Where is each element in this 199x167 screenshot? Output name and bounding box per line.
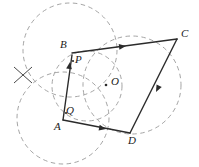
vertex-label-b: B	[60, 39, 67, 50]
segment-A-D	[63, 120, 130, 133]
geometry-figure: BPCOQAD	[0, 0, 199, 167]
vertex-dot-p	[72, 60, 74, 62]
segment-C-D-arrowhead-icon	[156, 84, 162, 92]
vertex-label-a: A	[54, 121, 61, 132]
segment-B-C-arrowhead-icon	[119, 44, 126, 50]
vertex-label-q: Q	[66, 105, 74, 116]
vertex-label-p: P	[75, 54, 82, 65]
vertex-label-d: D	[128, 135, 136, 146]
tick-mark-group	[14, 67, 32, 83]
segment-C-D	[130, 39, 177, 133]
circle-upper-left	[23, 3, 117, 97]
figure-canvas	[0, 0, 199, 167]
vertex-dot-o	[105, 84, 108, 87]
dashed-circle-group	[17, 3, 181, 164]
vertex-label-o: O	[111, 76, 119, 87]
vertex-label-c: C	[181, 28, 188, 39]
